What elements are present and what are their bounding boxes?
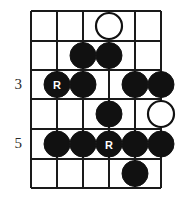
note-marker-fret5-string5[interactable] — [122, 131, 148, 157]
note-marker-fret5-string3[interactable] — [70, 131, 96, 157]
fretboard-diagram: 3 5 RR — [0, 0, 187, 205]
root-note-label: R — [105, 139, 113, 151]
grid-lines — [31, 11, 161, 188]
note-marker-fret5-string6[interactable] — [148, 131, 174, 157]
note-marker-fret5-string2[interactable] — [44, 131, 70, 157]
note-marker-fret4-string4[interactable] — [96, 101, 122, 127]
open-note-marker-fret1-string4[interactable] — [96, 13, 122, 39]
note-marker-fret3-string6[interactable] — [148, 72, 174, 98]
root-note-label: R — [53, 79, 61, 91]
note-marker-fret3-string5[interactable] — [122, 72, 148, 98]
open-note-marker-fret4-string6[interactable] — [148, 101, 174, 127]
note-marker-fret6-string5[interactable] — [122, 161, 148, 187]
fretboard-grid: RR — [0, 0, 187, 205]
note-marker-fret2-string3[interactable] — [70, 43, 96, 69]
note-marker-fret3-string3[interactable] — [70, 72, 96, 98]
note-marker-fret2-string4[interactable] — [96, 43, 122, 69]
